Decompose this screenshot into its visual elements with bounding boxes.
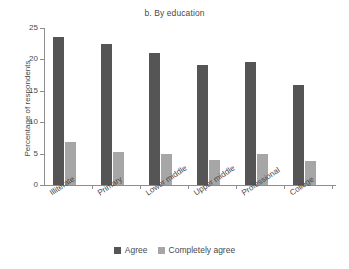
- y-axis-tick-label: 15: [29, 86, 38, 95]
- x-axis-tick-mark: [140, 185, 141, 189]
- y-axis-tick-label: 5: [34, 149, 38, 158]
- chart-title: b. By education: [0, 8, 349, 18]
- bar-agree: [293, 85, 304, 185]
- y-axis-tick-mark: [40, 91, 44, 92]
- bar-group: [293, 28, 316, 185]
- x-axis-tick-mark: [332, 185, 333, 189]
- y-axis-tick-mark: [40, 154, 44, 155]
- x-axis-tick-mark: [236, 185, 237, 189]
- y-axis-tick-label: 0: [34, 180, 38, 189]
- chart-legend: AgreeCompletely agree: [0, 245, 349, 255]
- bar-agree: [53, 37, 64, 185]
- y-axis-tick-mark: [40, 59, 44, 60]
- y-axis-tick-mark: [40, 28, 44, 29]
- y-axis-tick-label: 25: [29, 23, 38, 32]
- bar-agree: [149, 53, 160, 186]
- bar-group: [53, 28, 76, 185]
- bar-group: [245, 28, 268, 185]
- legend-item[interactable]: Completely agree: [158, 245, 236, 255]
- chart-container: b. By education Percentage of respondent…: [0, 0, 349, 269]
- y-axis-tick-label: 20: [29, 54, 38, 63]
- legend-swatch-icon: [114, 247, 121, 254]
- legend-label: Agree: [125, 245, 148, 255]
- legend-item[interactable]: Agree: [114, 245, 148, 255]
- bar-group: [149, 28, 172, 185]
- plot-area: 0510152025: [44, 28, 332, 185]
- bar-group: [197, 28, 220, 185]
- x-axis-tick-mark: [188, 185, 189, 189]
- bar-agree: [101, 44, 112, 185]
- bar-agree: [197, 65, 208, 185]
- legend-swatch-icon: [158, 247, 165, 254]
- bar-agree: [245, 62, 256, 185]
- y-axis-tick-mark: [40, 185, 44, 186]
- x-axis-tick-mark: [92, 185, 93, 189]
- legend-label: Completely agree: [169, 245, 236, 255]
- y-axis-tick-mark: [40, 122, 44, 123]
- x-axis-tick-mark: [284, 185, 285, 189]
- bar-group: [101, 28, 124, 185]
- y-axis-tick-label: 10: [29, 117, 38, 126]
